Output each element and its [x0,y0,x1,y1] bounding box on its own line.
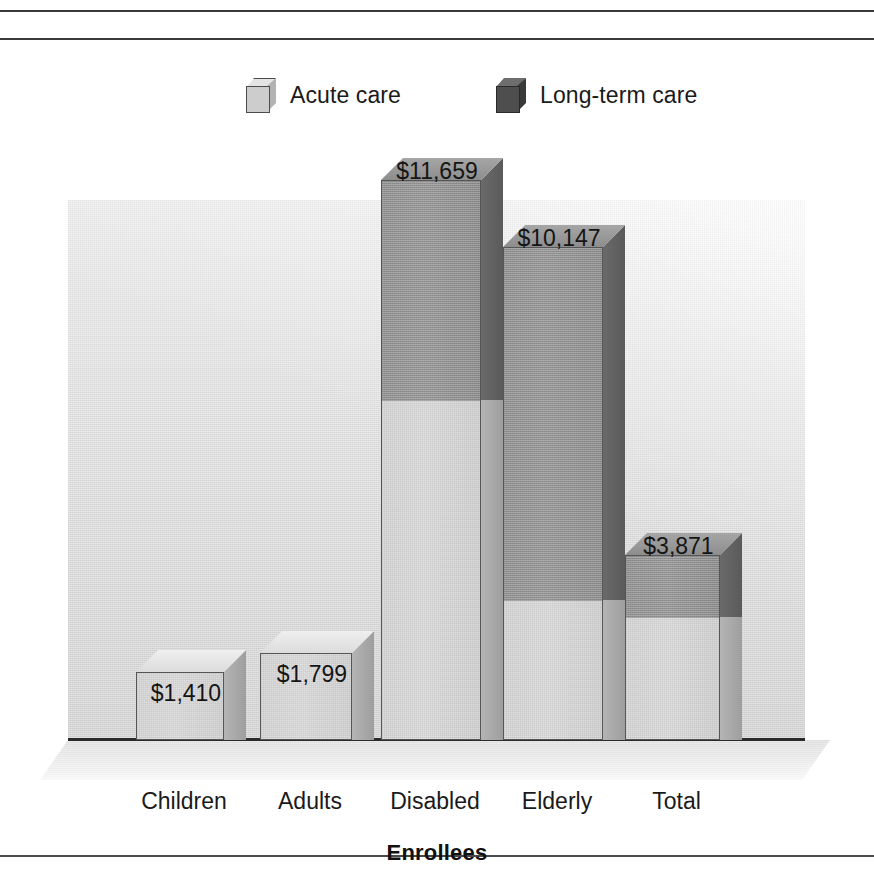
category-label-total: Total [592,788,762,815]
bar-value-label: $11,659 [357,158,517,185]
bar-front-face [625,555,720,740]
bar-side-face [720,533,742,740]
bar-segment-acute-care [504,601,602,740]
bar-side-face [603,225,625,740]
legend-item-long-term-care: Long-term care [496,78,697,112]
bar-segment-long-term-care [626,556,719,618]
bar-disabled [381,180,481,740]
bar-segment-acute-care [382,401,480,740]
bar-total [625,555,720,740]
bar-value-label: $3,871 [599,533,759,560]
chart-legend: Acute care Long-term care [0,78,874,120]
legend-item-acute-care: Acute care [246,78,401,112]
legend-label-acute-care: Acute care [290,82,401,109]
cube-icon [496,78,526,112]
x-axis-title: Enrollees [0,840,874,866]
bar-top-face [136,650,224,672]
stacked-bar-chart-figure: Acute care Long-term care $1,410$1,799$1… [0,40,874,855]
bar-front-face [381,180,481,740]
bar-segment-acute-care [626,618,719,740]
top-rule-1 [0,10,874,12]
bar-value-label: $1,799 [232,661,392,688]
bar-top-face [260,631,352,653]
bar-segment-long-term-care [504,248,602,601]
cube-icon [246,78,276,112]
legend-label-long-term-care: Long-term care [540,82,697,109]
bar-value-label: $10,147 [479,225,639,252]
bar-segment-long-term-care [382,181,480,401]
bar-front-face [503,247,603,740]
chart-floor [40,740,830,780]
bar-elderly [503,247,603,740]
